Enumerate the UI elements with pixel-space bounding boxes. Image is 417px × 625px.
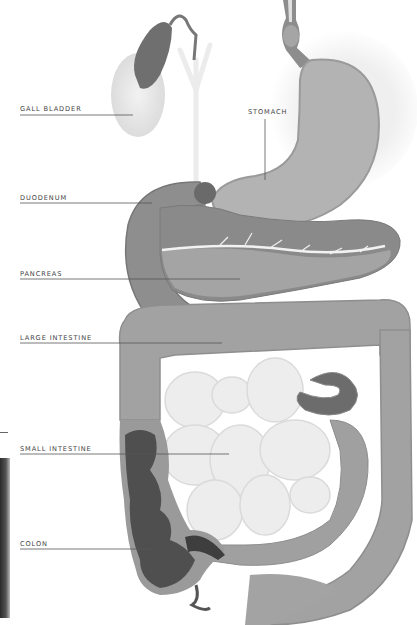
- label-duodenum: DUODENUM: [20, 194, 67, 202]
- gall-bladder-textured: [134, 22, 172, 89]
- edge-tick: [0, 432, 8, 433]
- label-gall-bladder: GALL BLADDER: [20, 105, 82, 113]
- label-small-intestine: SMALL INTESTINE: [20, 445, 92, 453]
- label-pancreas: PANCREAS: [20, 270, 62, 278]
- label-large-intestine: LARGE INTESTINE: [20, 334, 92, 342]
- small-intestine-shape: [163, 358, 330, 540]
- adjacent-image-edge: [0, 458, 10, 618]
- jejunum-loop: [297, 373, 358, 416]
- label-colon: COLON: [20, 540, 48, 548]
- label-stomach: STOMACH: [248, 108, 287, 116]
- digestive-system-illustration: [0, 0, 417, 625]
